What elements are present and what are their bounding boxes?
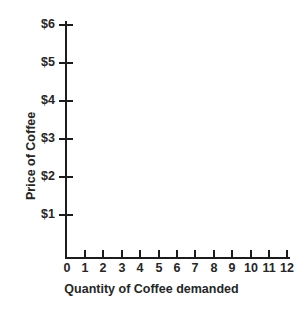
- x-axis-title: Quantity of Coffee demanded: [0, 282, 303, 296]
- y-axis-tick-label-text: $1: [27, 207, 55, 221]
- x-axis-tick: [268, 250, 270, 259]
- coffee-demand-chart: Price of Coffee $6$5$4$3$2$1 01234567891…: [0, 0, 303, 313]
- x-axis-tick-label: 12: [275, 261, 299, 275]
- x-axis-tick: [121, 250, 123, 259]
- y-axis-tick-label-text: $3: [27, 131, 55, 145]
- y-axis-tick: [59, 62, 73, 64]
- y-axis-tick-label: $3: [25, 131, 55, 145]
- x-axis-tick: [102, 250, 104, 259]
- y-axis-tick-label-text: $5: [27, 55, 55, 69]
- x-axis-tick: [176, 250, 178, 259]
- y-axis-tick-label: $6: [25, 17, 55, 31]
- y-axis-tick-label: $2: [25, 169, 55, 183]
- y-axis-tick: [59, 24, 73, 26]
- x-axis-tick: [158, 250, 160, 259]
- x-axis-tick: [231, 250, 233, 259]
- x-axis-tick: [139, 250, 141, 259]
- y-axis-tick: [59, 176, 73, 178]
- y-axis-tick-label: $4: [25, 93, 55, 107]
- plot-area[interactable]: [67, 21, 290, 257]
- y-axis-tick: [59, 100, 73, 102]
- y-axis-tick: [59, 214, 73, 216]
- y-axis-tick-label-text: $6: [27, 17, 55, 31]
- x-axis-tick: [194, 250, 196, 259]
- x-axis-tick: [84, 250, 86, 259]
- x-axis-tick: [286, 250, 288, 259]
- y-axis-tick-label: $5: [25, 55, 55, 69]
- y-axis-tick: [59, 138, 73, 140]
- y-axis-tick-label-text: $4: [27, 93, 55, 107]
- y-axis-tick-label-text: $2: [27, 169, 55, 183]
- x-axis-tick: [250, 250, 252, 259]
- x-axis-tick: [213, 250, 215, 259]
- y-axis-tick-label: $1: [25, 207, 55, 221]
